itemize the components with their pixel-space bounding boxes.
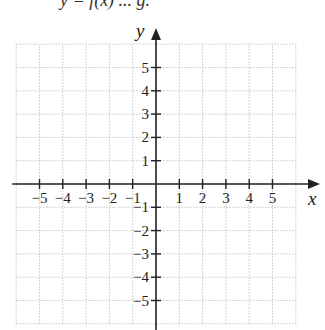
y-tick-label: 1 — [142, 153, 150, 169]
x-tick-label: 4 — [245, 190, 253, 206]
x-tick-label: −5 — [32, 190, 48, 206]
y-tick-label: 4 — [142, 83, 150, 99]
coordinate-plane: −5−4−3−2−112345−5−4−3−2−112345 x y — [0, 0, 325, 330]
x-axis-label: x — [307, 188, 317, 209]
y-axis-label: y — [134, 20, 145, 41]
y-tick-label: −2 — [133, 223, 149, 239]
y-tick-label: −1 — [133, 199, 149, 215]
y-axis-arrow-icon — [151, 28, 161, 40]
axes — [12, 28, 320, 330]
y-tick-label: −5 — [133, 293, 149, 309]
x-tick-label: 1 — [176, 190, 184, 206]
x-tick-label: −3 — [78, 190, 94, 206]
x-tick-label: 5 — [269, 190, 277, 206]
x-tick-label: 3 — [222, 190, 230, 206]
y-tick-label: 3 — [142, 106, 150, 122]
y-tick-label: 2 — [142, 129, 150, 145]
y-tick-label: 5 — [142, 60, 150, 76]
x-tick-label: −2 — [101, 190, 117, 206]
x-tick-label: −4 — [55, 190, 71, 206]
y-tick-label: −4 — [133, 269, 149, 285]
y-tick-label: −3 — [133, 246, 149, 262]
x-tick-label: 2 — [199, 190, 207, 206]
